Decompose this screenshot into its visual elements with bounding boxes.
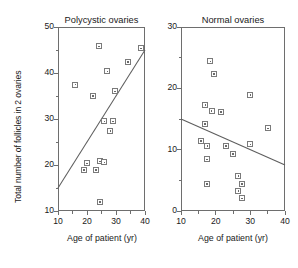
- x-axis-label-polycystic: Age of patient (yr): [46, 233, 158, 243]
- y-tick-major: [177, 88, 181, 89]
- data-point: [138, 45, 144, 51]
- data-point: [90, 93, 96, 99]
- y-tick-label: 10: [155, 144, 177, 154]
- y-tick-minor: [56, 142, 59, 143]
- data-point: [207, 58, 213, 64]
- x-tick-major: [145, 211, 146, 215]
- data-point: [198, 138, 204, 144]
- x-tick-label: 10: [170, 216, 192, 226]
- data-point: [209, 108, 215, 114]
- data-point: [72, 82, 78, 88]
- x-tick-minor: [101, 211, 102, 214]
- x-tick-major: [58, 211, 59, 215]
- y-tick-major: [54, 27, 58, 28]
- y-tick-label: 40: [32, 67, 54, 77]
- y-tick-minor: [56, 188, 59, 189]
- data-point: [204, 181, 210, 187]
- data-point: [81, 167, 87, 173]
- panel-title-normal: Normal ovaries: [181, 15, 285, 25]
- y-tick-minor: [56, 96, 59, 97]
- x-tick-major: [250, 211, 251, 215]
- x-tick-minor: [267, 211, 268, 214]
- data-point: [202, 121, 208, 127]
- data-point: [96, 43, 102, 49]
- data-point: [125, 59, 131, 65]
- data-point: [223, 143, 229, 149]
- y-tick-label: 30: [155, 21, 177, 31]
- data-point: [211, 71, 217, 77]
- x-tick-label: 40: [274, 216, 296, 226]
- y-tick-label: 0: [155, 205, 177, 215]
- data-point: [265, 125, 271, 131]
- y-tick-minor: [179, 119, 182, 120]
- x-tick-minor: [233, 211, 234, 214]
- x-tick-major: [87, 211, 88, 215]
- y-tick-label: 50: [32, 21, 54, 31]
- x-tick-label: 30: [105, 216, 127, 226]
- x-tick-major: [181, 211, 182, 215]
- data-point: [101, 159, 107, 165]
- y-tick-minor: [179, 57, 182, 58]
- data-point: [101, 118, 107, 124]
- data-point: [235, 173, 241, 179]
- y-tick-major: [177, 27, 181, 28]
- x-tick-minor: [72, 211, 73, 214]
- y-tick-label: 30: [32, 113, 54, 123]
- data-point: [247, 141, 253, 147]
- data-point: [93, 167, 99, 173]
- y-tick-major: [54, 73, 58, 74]
- regression-line-normal: [181, 27, 285, 211]
- y-tick-label: 20: [155, 82, 177, 92]
- y-axis-label: Total number of follicles in 2 ovaries: [13, 71, 23, 203]
- x-tick-minor: [198, 211, 199, 214]
- y-tick-major: [54, 165, 58, 166]
- y-tick-minor: [179, 180, 182, 181]
- data-point: [110, 118, 116, 124]
- panel-title-polycystic: Polycystic ovaries: [58, 15, 145, 25]
- data-point: [97, 199, 103, 205]
- x-tick-major: [215, 211, 216, 215]
- data-point: [247, 92, 253, 98]
- y-tick-minor: [56, 50, 59, 51]
- y-tick-label: 10: [32, 205, 54, 215]
- data-point: [84, 160, 90, 166]
- data-point: [218, 109, 224, 115]
- x-tick-label: 10: [47, 216, 69, 226]
- data-point: [202, 102, 208, 108]
- data-point: [239, 195, 245, 201]
- data-point: [204, 143, 210, 149]
- x-tick-label: 20: [205, 216, 227, 226]
- figure-scatter-panels: Total number of follicles in 2 ovaries P…: [0, 0, 298, 268]
- x-tick-minor: [130, 211, 131, 214]
- x-tick-major: [285, 211, 286, 215]
- x-tick-major: [116, 211, 117, 215]
- data-point: [204, 156, 210, 162]
- data-point: [239, 181, 245, 187]
- y-tick-label: 20: [32, 159, 54, 169]
- x-axis-label-normal: Age of patient (yr): [177, 233, 289, 243]
- x-tick-label: 40: [134, 216, 156, 226]
- x-tick-label: 20: [76, 216, 98, 226]
- y-tick-major: [54, 119, 58, 120]
- x-tick-label: 30: [239, 216, 261, 226]
- data-point: [230, 151, 236, 157]
- data-point: [235, 188, 241, 194]
- data-point: [107, 128, 113, 134]
- y-tick-major: [177, 149, 181, 150]
- data-point: [104, 68, 110, 74]
- data-point: [112, 88, 118, 94]
